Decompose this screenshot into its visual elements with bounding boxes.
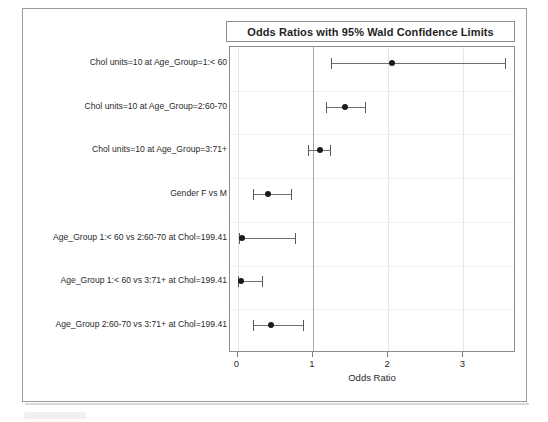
x-axis-title: Odds Ratio	[229, 372, 515, 383]
odds-ratio-estimate-marker	[238, 278, 244, 284]
x-axis-tick-label: 2	[384, 358, 389, 369]
gridline-horizontal	[230, 222, 514, 223]
ci-cap-lower	[326, 102, 327, 113]
y-axis-tick-label: Gender F vs M	[170, 188, 227, 198]
x-axis: 0123	[229, 352, 515, 374]
ci-cap-lower	[308, 145, 309, 156]
ci-cap-upper	[295, 233, 296, 244]
odds-ratio-estimate-marker	[268, 322, 274, 328]
odds-ratio-estimate-marker	[265, 191, 271, 197]
ci-cap-upper	[262, 276, 263, 287]
confidence-interval-line	[253, 194, 291, 195]
x-axis-tick	[462, 352, 463, 357]
gridline-vertical	[238, 47, 239, 351]
gridline-vertical	[388, 47, 389, 351]
gridline-horizontal	[230, 309, 514, 310]
reference-line-or-1	[313, 47, 314, 351]
confidence-interval-line	[253, 325, 303, 326]
x-axis-tick	[237, 352, 238, 357]
confidence-interval-line	[331, 63, 505, 64]
y-axis-tick-label: Chol units=10 at Age_Group=1:< 60	[90, 57, 227, 67]
x-axis-tick	[387, 352, 388, 357]
x-axis-tick-label: 1	[309, 358, 314, 369]
odds-ratio-estimate-marker	[317, 147, 323, 153]
ci-cap-lower	[331, 58, 332, 69]
ci-cap-upper	[291, 189, 292, 200]
y-axis-tick-label: Age_Group 1:< 60 vs 2:60-70 at Chol=199.…	[53, 232, 227, 242]
gridline-horizontal	[230, 134, 514, 135]
gridline-horizontal	[230, 178, 514, 179]
odds-ratio-estimate-marker	[239, 235, 245, 241]
ci-cap-upper	[330, 145, 331, 156]
ci-cap-lower	[253, 320, 254, 331]
ci-cap-upper	[505, 58, 506, 69]
y-axis-tick-label: Chol units=10 at Age_Group=3:71+	[92, 144, 227, 154]
chart-title-box: Odds Ratios with 95% Wald Confidence Lim…	[226, 21, 515, 42]
ci-cap-upper	[365, 102, 366, 113]
y-axis-labels: Chol units=10 at Age_Group=1:< 60Chol un…	[0, 46, 227, 352]
frame-shadow	[25, 403, 529, 405]
gridline-vertical	[463, 47, 464, 351]
odds-ratio-estimate-marker	[342, 104, 348, 110]
plot-area	[229, 46, 515, 352]
gridline-horizontal	[230, 91, 514, 92]
gridline-horizontal	[230, 266, 514, 267]
odds-ratio-estimate-marker	[389, 60, 395, 66]
x-axis-tick-label: 0	[234, 358, 239, 369]
scan-artifact	[24, 412, 86, 419]
chart-title: Odds Ratios with 95% Wald Confidence Lim…	[227, 22, 514, 43]
confidence-interval-line	[239, 238, 295, 239]
y-axis-tick-label: Age_Group 1:< 60 vs 3:71+ at Chol=199.41	[60, 275, 227, 285]
x-axis-tick	[312, 352, 313, 357]
y-axis-tick-label: Age_Group 2:60-70 vs 3:71+ at Chol=199.4…	[55, 319, 227, 329]
x-axis-tick-label: 3	[460, 358, 465, 369]
y-axis-tick-label: Chol units=10 at Age_Group=2:60-70	[85, 101, 227, 111]
ci-cap-upper	[303, 320, 304, 331]
ci-cap-lower	[253, 189, 254, 200]
